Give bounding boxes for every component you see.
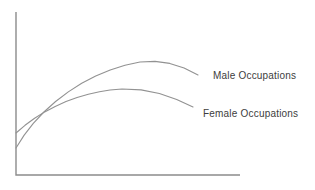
female-occupations-curve — [16, 89, 193, 133]
chart-canvas — [0, 0, 315, 190]
male-occupations-curve — [16, 61, 198, 148]
axis-frame — [16, 12, 240, 175]
occupations-lifecycle-chart: Male Occupations Female Occupations — [0, 0, 315, 190]
male-occupations-label: Male Occupations — [213, 70, 296, 82]
female-occupations-label: Female Occupations — [203, 108, 298, 120]
